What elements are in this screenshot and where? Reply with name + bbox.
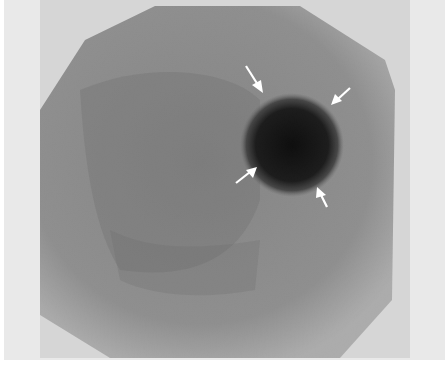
scintigraphy-image xyxy=(0,0,445,367)
